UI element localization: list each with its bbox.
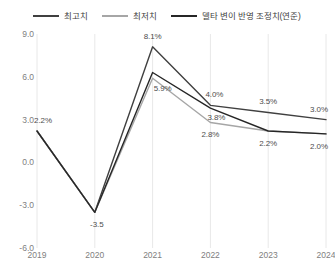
data-point-label: 2.2% [259,139,277,148]
legend-line-icon [171,15,197,17]
x-axis-tick-label: 2019 [28,250,47,261]
y-axis-tick-label: -3.0 [2,200,34,210]
legend-line-icon [102,15,128,17]
legend-item-label: 최저치 [133,11,157,21]
legend-item-label: 최고치 [64,11,88,21]
data-point-label: 5.9% [154,84,172,93]
x-axis-tick-label: 2020 [85,250,104,261]
data-point-label: 3.5% [259,97,277,106]
data-point-label: 2.0% [310,141,328,150]
data-point-label: 2.2% [34,116,52,125]
legend-item-delta_adjusted[interactable]: 델타 변이 반영 조정치(연준) [171,11,301,21]
data-point-label: -3.5 [90,220,103,229]
x-axis-tick-label: 2021 [143,250,162,261]
gridlines [37,34,326,248]
y-axis: 9.06.03.00.0-3.0-6.0 [0,34,34,248]
x-axis-tick-label: 2023 [259,250,278,261]
data-point-label: 3.0% [310,104,328,113]
series-line[interactable] [37,47,326,212]
series-lines [37,47,326,212]
y-axis-tick-label: 9.0 [2,29,34,39]
chart-legend: 최고치최저치델타 변이 반영 조정치(연준) [0,11,334,21]
data-point-label: 2.8% [201,130,219,139]
plot-svg [37,34,326,248]
y-axis-tick-label: 6.0 [2,72,34,82]
x-axis-tick-label: 2022 [201,250,220,261]
y-axis-tick-label: 3.0 [2,115,34,125]
data-point-label: 4.0% [205,90,223,99]
x-axis-tick-label: 2024 [317,250,335,261]
plot-area: 2.2%-3.58.1%5.9%4.0%3.8%2.8%3.5%2.2%3.0%… [37,34,326,248]
x-axis: 201920202021202220232024 [37,250,326,264]
legend-item-low[interactable]: 최저치 [102,11,157,21]
data-point-label: 3.8% [207,113,225,122]
y-axis-tick-label: 0.0 [2,157,34,167]
legend-line-icon [33,15,59,17]
series-line[interactable] [37,73,326,213]
legend-item-high[interactable]: 최고치 [33,11,88,21]
data-point-label: 8.1% [144,31,162,40]
legend-item-label: 델타 변이 반영 조정치(연준) [202,11,301,21]
